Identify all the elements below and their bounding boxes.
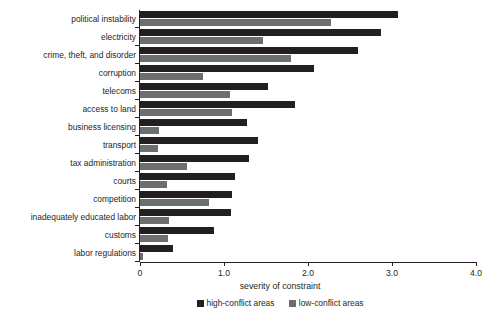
category-label: political instability bbox=[71, 10, 140, 28]
bar-high-conflict bbox=[140, 29, 381, 36]
bar-low-conflict bbox=[140, 217, 169, 224]
x-axis-tick bbox=[392, 262, 393, 266]
x-axis-tick bbox=[140, 262, 141, 266]
bar-group: inadequately educated labor bbox=[0, 208, 498, 226]
category-label: access to land bbox=[82, 100, 140, 118]
bar-pair bbox=[140, 47, 476, 63]
category-label: transport bbox=[103, 136, 140, 154]
x-axis-tick-label: 4.0 bbox=[470, 268, 482, 278]
legend-item-low-conflict: low-conflict areas bbox=[289, 298, 364, 308]
bar-pair bbox=[140, 137, 476, 153]
category-label: business licensing bbox=[68, 118, 140, 136]
y-axis-line bbox=[139, 10, 140, 262]
bar-pair bbox=[140, 83, 476, 99]
bar-group: business licensing bbox=[0, 118, 498, 136]
bar-high-conflict bbox=[140, 155, 249, 162]
bar-group: access to land bbox=[0, 100, 498, 118]
x-axis-tick bbox=[476, 262, 477, 266]
bar-group: electricity bbox=[0, 28, 498, 46]
x-axis-tick-label: 2.0 bbox=[302, 268, 314, 278]
bar-high-conflict bbox=[140, 209, 231, 216]
bar-pair bbox=[140, 29, 476, 45]
legend-item-high-conflict: high-conflict areas bbox=[197, 298, 275, 308]
bar-pair bbox=[140, 227, 476, 243]
x-axis-title-text: severity of constraint bbox=[240, 281, 321, 291]
x-axis-tick-label: 3.0 bbox=[386, 268, 398, 278]
bar-high-conflict bbox=[140, 119, 247, 126]
bar-low-conflict bbox=[140, 235, 168, 242]
category-label: crime, theft, and disorder bbox=[43, 46, 140, 64]
bar-low-conflict bbox=[140, 145, 158, 152]
legend-label-low-conflict: low-conflict areas bbox=[299, 298, 364, 308]
bar-low-conflict bbox=[140, 199, 209, 206]
bar-group: corruption bbox=[0, 64, 498, 82]
x-axis-title: severity of constraint bbox=[0, 281, 498, 291]
bar-pair bbox=[140, 245, 476, 261]
bar-high-conflict bbox=[140, 101, 295, 108]
category-label: tax administration bbox=[70, 154, 140, 172]
bar-low-conflict bbox=[140, 127, 159, 134]
bar-pair bbox=[140, 209, 476, 225]
x-axis-tick bbox=[308, 262, 309, 266]
category-label: courts bbox=[113, 172, 140, 190]
bar-pair bbox=[140, 119, 476, 135]
bar-high-conflict bbox=[140, 47, 358, 54]
bar-low-conflict bbox=[140, 181, 167, 188]
legend-label-high-conflict: high-conflict areas bbox=[207, 298, 275, 308]
bar-high-conflict bbox=[140, 137, 258, 144]
bar-low-conflict bbox=[140, 253, 143, 260]
x-axis-tick bbox=[224, 262, 225, 266]
bar-group: tax administration bbox=[0, 154, 498, 172]
bar-group: customs bbox=[0, 226, 498, 244]
bar-low-conflict bbox=[140, 37, 263, 44]
bar-group: competition bbox=[0, 190, 498, 208]
bar-high-conflict bbox=[140, 11, 398, 18]
bar-high-conflict bbox=[140, 173, 235, 180]
bar-group: political instability bbox=[0, 10, 498, 28]
bar-group: crime, theft, and disorder bbox=[0, 46, 498, 64]
bar-chart: political instabilityelectricitycrime, t… bbox=[0, 0, 498, 328]
plot-area: political instabilityelectricitycrime, t… bbox=[0, 10, 498, 262]
bar-group: courts bbox=[0, 172, 498, 190]
x-axis-tick-label: 0 bbox=[138, 268, 143, 278]
bar-low-conflict bbox=[140, 73, 203, 80]
bar-pair bbox=[140, 191, 476, 207]
bar-low-conflict bbox=[140, 19, 331, 26]
bar-pair bbox=[140, 65, 476, 81]
category-label: customs bbox=[105, 226, 140, 244]
x-axis-tick-label: 1.0 bbox=[218, 268, 230, 278]
bar-group: transport bbox=[0, 136, 498, 154]
bar-low-conflict bbox=[140, 109, 232, 116]
bar-group: labor regulations bbox=[0, 244, 498, 262]
legend-swatch-icon-low-conflict bbox=[289, 300, 296, 307]
category-label: inadequately educated labor bbox=[31, 208, 140, 226]
bar-pair bbox=[140, 155, 476, 171]
category-label: telecoms bbox=[102, 82, 140, 100]
bar-rows: political instabilityelectricitycrime, t… bbox=[0, 10, 498, 262]
bar-low-conflict bbox=[140, 55, 291, 62]
bar-high-conflict bbox=[140, 191, 232, 198]
category-label: corruption bbox=[99, 64, 140, 82]
bar-low-conflict bbox=[140, 91, 230, 98]
bar-group: telecoms bbox=[0, 82, 498, 100]
bar-pair bbox=[140, 173, 476, 189]
category-label: labor regulations bbox=[74, 244, 140, 262]
legend-swatch-icon-high-conflict bbox=[197, 300, 204, 307]
bar-high-conflict bbox=[140, 227, 214, 234]
chart-legend: high-conflict areas low-conflict areas bbox=[0, 298, 498, 308]
bar-pair bbox=[140, 101, 476, 117]
category-label: electricity bbox=[101, 28, 140, 46]
bar-high-conflict bbox=[140, 245, 173, 252]
bar-high-conflict bbox=[140, 83, 268, 90]
bar-pair bbox=[140, 11, 476, 27]
category-label: competition bbox=[93, 190, 140, 208]
bar-high-conflict bbox=[140, 65, 314, 72]
bar-low-conflict bbox=[140, 163, 187, 170]
